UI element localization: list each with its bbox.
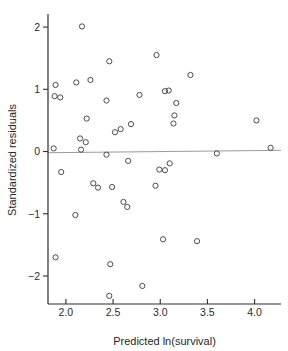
data-point [91, 181, 96, 186]
data-point [167, 161, 172, 166]
data-point [53, 255, 58, 260]
data-point [188, 72, 193, 77]
data-point [174, 100, 179, 105]
data-point [88, 77, 93, 82]
data-point [107, 293, 112, 298]
y-tick-label: −1 [28, 208, 40, 220]
y-tick-label: 0 [34, 145, 40, 157]
data-point [58, 95, 63, 100]
data-point [53, 82, 58, 87]
data-point [140, 283, 145, 288]
data-point [118, 127, 123, 132]
data-point [125, 204, 130, 209]
y-tick-label: 2 [34, 21, 40, 33]
data-point [52, 94, 57, 99]
x-tick-label: 2.0 [59, 306, 74, 318]
data-point [154, 52, 159, 57]
x-tick-label: 3.0 [153, 306, 168, 318]
y-tick-label: −2 [28, 270, 40, 282]
data-point [162, 89, 167, 94]
x-tick-label: 4.0 [247, 306, 262, 318]
data-point [162, 168, 167, 173]
x-tick-label: 3.5 [200, 306, 215, 318]
x-axis-ticks: 2.02.53.03.54.0 [59, 299, 262, 318]
data-point [160, 237, 165, 242]
y-axis-title: Standardized residuals [6, 104, 18, 216]
data-point [104, 152, 109, 157]
data-point [157, 167, 162, 172]
data-points [51, 24, 273, 299]
data-point [137, 92, 142, 97]
data-point [128, 122, 133, 127]
data-point [104, 98, 109, 103]
data-point [107, 59, 112, 64]
data-point [84, 116, 89, 121]
data-point [121, 199, 126, 204]
x-tick-label: 2.5 [106, 306, 121, 318]
y-tick-label: 1 [34, 83, 40, 95]
data-point [214, 151, 219, 156]
data-point [254, 118, 259, 123]
data-point [172, 113, 177, 118]
data-point [153, 183, 158, 188]
residuals-scatter-chart: 210−1−2 2.02.53.03.54.0 Predicted ln(sur… [0, 0, 288, 351]
data-point [59, 169, 64, 174]
data-point [110, 184, 115, 189]
data-point [95, 185, 100, 190]
data-point [112, 130, 117, 135]
data-point [108, 262, 113, 267]
scatter-plot-figure: 210−1−2 2.02.53.03.54.0 Predicted ln(sur… [0, 0, 288, 351]
x-axis-title: Predicted ln(survival) [113, 335, 216, 347]
data-point [51, 146, 56, 151]
data-point [77, 136, 82, 141]
data-point [83, 140, 88, 145]
data-point [78, 147, 83, 152]
data-point [194, 239, 199, 244]
data-point [268, 145, 273, 150]
data-point [74, 80, 79, 85]
data-point [126, 158, 131, 163]
data-point [73, 212, 78, 217]
data-point [79, 24, 84, 29]
y-axis-ticks: 210−1−2 [28, 21, 48, 282]
data-point [171, 121, 176, 126]
